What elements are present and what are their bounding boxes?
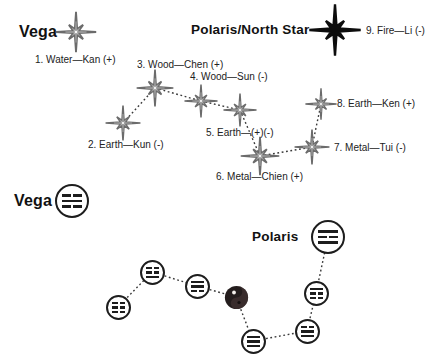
- vega-trigram-circle: [55, 184, 89, 218]
- star-icon-sun: [183, 83, 219, 119]
- trigram-circle-chen: [140, 260, 165, 285]
- trigram-circle-sun: [185, 274, 210, 299]
- taiji-yin-yang-icon: [224, 285, 249, 310]
- constellation-diagram: Vega 1. Water—Kan (+) Polaris/North Star…: [0, 0, 426, 363]
- label-fire-li: 9. Fire—Li (-): [366, 25, 425, 36]
- trigram-circle-chien: [241, 329, 266, 354]
- star-icon-ken: [304, 87, 338, 121]
- polaris-title-bottom: Polaris: [252, 229, 298, 244]
- star-icon-kun: [104, 104, 142, 142]
- star-icon-chen: [135, 68, 175, 108]
- label-earth-ken: 8. Earth—Ken (+): [337, 98, 415, 109]
- vega-star-icon: [54, 10, 98, 54]
- vega-title-top: Vega: [19, 23, 57, 41]
- label-metal-chien: 6. Metal—Chien (+): [216, 171, 303, 182]
- trigram-circle-tui: [295, 319, 320, 344]
- label-wood-chen: 3. Wood—Chen (+): [137, 59, 223, 70]
- label-water-kan: 1. Water—Kan (+): [35, 54, 116, 65]
- polaris-title-top: Polaris/North Star: [191, 22, 309, 37]
- star-icon-earth5: [222, 92, 258, 128]
- trigram-circle-kun: [106, 295, 131, 320]
- label-earth-kun: 2. Earth—Kun (-): [88, 139, 164, 150]
- star-icon-tui: [293, 128, 331, 166]
- polaris-trigram-circle: [311, 220, 345, 254]
- label-metal-tui: 7. Metal—Tui (-): [334, 142, 406, 153]
- vega-title-bottom: Vega: [14, 192, 52, 210]
- polaris-star-icon: [307, 2, 363, 58]
- label-earth-5: 5. Earth—(+)(-): [206, 127, 274, 138]
- trigram-circle-ken: [304, 281, 329, 306]
- label-wood-sun: 4. Wood—Sun (-): [190, 71, 268, 82]
